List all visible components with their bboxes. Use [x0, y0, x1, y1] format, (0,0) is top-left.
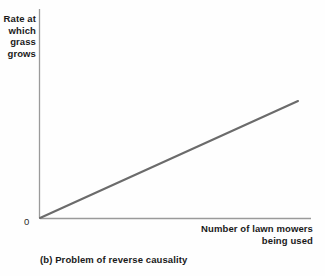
figure-caption: (b) Problem of reverse causality	[40, 254, 187, 265]
data-line-grass-growth	[40, 101, 298, 218]
figure-panel: Rate at which grass grows 0 Number of la…	[0, 0, 325, 276]
origin-tick-label: 0	[24, 216, 29, 227]
x-axis-label: Number of lawn mowers being used	[155, 223, 313, 246]
